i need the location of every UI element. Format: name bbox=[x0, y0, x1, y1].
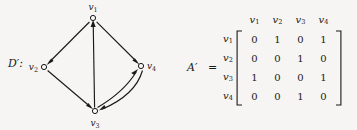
matrix-row-header-v3: v3 bbox=[220, 68, 236, 87]
table-row: v1 0 1 0 1 bbox=[220, 30, 342, 49]
matrix-bracket-spacer-left bbox=[236, 11, 243, 30]
matrix-col-header-v4: v4 bbox=[312, 11, 335, 30]
edge-v3-to-v1 bbox=[91, 20, 96, 108]
matrix-cell-r1c2: 1 bbox=[266, 30, 289, 49]
matrix-equals-sign: = bbox=[208, 62, 217, 73]
matrix-cell-r4c2: 0 bbox=[266, 87, 289, 106]
matrix-row-header-v2: v2 bbox=[220, 49, 236, 68]
vertex-node-v2[interactable] bbox=[41, 64, 46, 69]
matrix-cell-r2c4: 0 bbox=[312, 49, 335, 68]
figure-container: D′: bbox=[0, 0, 357, 130]
matrix-cell-r3c4: 1 bbox=[312, 68, 335, 87]
matrix-cell-r2c3: 1 bbox=[289, 49, 312, 68]
vertex-label-v4: v4 bbox=[147, 61, 156, 73]
matrix-col-header-v2: v2 bbox=[266, 11, 289, 30]
edge-v1-to-v2 bbox=[47, 22, 90, 65]
edge-v1-to-v4 bbox=[97, 22, 140, 65]
matrix-cell-r3c3: 0 bbox=[289, 68, 312, 87]
matrix-cell-r4c3: 1 bbox=[289, 87, 312, 106]
matrix-cell-r4c1: 0 bbox=[243, 87, 266, 106]
matrix-row-header-v1: v1 bbox=[220, 30, 236, 49]
matrix-cell-r2c1: 0 bbox=[243, 49, 266, 68]
matrix-cell-r1c4: 1 bbox=[312, 30, 335, 49]
matrix-cell-r3c1: 1 bbox=[243, 68, 266, 87]
matrix-cell-r1c3: 0 bbox=[289, 30, 312, 49]
matrix-name-label: A′ bbox=[187, 62, 197, 73]
arrowhead-v3-v4 bbox=[131, 69, 138, 75]
edge-v2-to-v3 bbox=[48, 71, 94, 110]
matrix-right-bracket bbox=[335, 30, 342, 106]
digraph-drawing: v1 v2 v3 v4 bbox=[0, 0, 180, 130]
vertex-label-v1: v1 bbox=[88, 2, 97, 14]
vertex-label-v3: v3 bbox=[90, 118, 99, 130]
matrix-col-header-v3: v3 bbox=[289, 11, 312, 30]
matrix-col-header-v1: v1 bbox=[243, 11, 266, 30]
adjacency-matrix-table: v1 v2 v3 v4 v1 0 bbox=[220, 11, 342, 106]
matrix-corner-cell bbox=[220, 11, 236, 30]
matrix-bracket-spacer-right bbox=[335, 11, 342, 30]
vertex-node-v4[interactable] bbox=[138, 63, 143, 68]
vertex-node-v1[interactable] bbox=[90, 15, 95, 20]
matrix-grid: v1 v2 v3 v4 v1 0 bbox=[220, 11, 342, 106]
matrix-column-header-row: v1 v2 v3 v4 bbox=[220, 11, 342, 30]
matrix-row-header-v4: v4 bbox=[220, 87, 236, 106]
matrix-cell-r3c2: 0 bbox=[266, 68, 289, 87]
matrix-cell-r1c1: 0 bbox=[243, 30, 266, 49]
matrix-cell-r2c2: 0 bbox=[266, 49, 289, 68]
vertex-node-v3[interactable] bbox=[92, 108, 97, 113]
vertex-label-v2: v2 bbox=[29, 62, 38, 74]
matrix-panel: A′ = v1 v2 v3 v4 v1 bbox=[180, 0, 357, 130]
matrix-cell-r4c4: 0 bbox=[312, 87, 335, 106]
matrix-left-bracket bbox=[236, 30, 243, 106]
digraph-panel: D′: bbox=[0, 0, 180, 130]
